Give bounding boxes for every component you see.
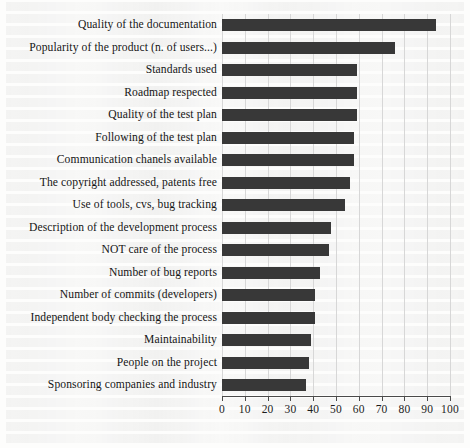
bar — [222, 42, 395, 54]
bar — [222, 357, 309, 369]
bar — [222, 244, 329, 256]
bar-row: Independent body checking the process — [0, 307, 470, 330]
horizontal-bar-chart: 0102030405060708090100Quality of the doc… — [0, 0, 470, 448]
category-label: Independent body checking the process — [30, 307, 217, 330]
x-axis-tick — [359, 397, 360, 401]
bar-row: Number of commits (developers) — [0, 284, 470, 307]
category-label: Maintainability — [144, 329, 217, 352]
category-label: Description of the development process — [29, 217, 217, 240]
bar — [222, 312, 315, 324]
x-axis-tick — [450, 397, 451, 401]
bar — [222, 64, 357, 76]
bar-row: Roadmap respected — [0, 82, 470, 105]
bar-row: Quality of the test plan — [0, 104, 470, 127]
x-axis-tick — [290, 397, 291, 401]
bar-row: Communication chanels available — [0, 149, 470, 172]
category-label: Number of bug reports — [109, 262, 217, 285]
bar-row: Sponsoring companies and industry — [0, 374, 470, 397]
bar — [222, 379, 306, 391]
x-axis-tick — [268, 397, 269, 401]
category-label: Following of the test plan — [95, 127, 217, 150]
x-axis-tick-label: 100 — [435, 403, 465, 415]
category-label: NOT care of the process — [102, 239, 217, 262]
bar — [222, 132, 354, 144]
category-label: Number of commits (developers) — [60, 284, 217, 307]
category-label: Use of tools, cvs, bug tracking — [73, 194, 217, 217]
category-label: People on the project — [117, 352, 217, 375]
bar-row: Number of bug reports — [0, 262, 470, 285]
bar — [222, 19, 436, 31]
bar — [222, 109, 357, 121]
bar-row: Use of tools, cvs, bug tracking — [0, 194, 470, 217]
x-axis-tick — [427, 397, 428, 401]
bar-row: Maintainability — [0, 329, 470, 352]
category-label: Popularity of the product (n. of users..… — [29, 37, 217, 60]
bar — [222, 199, 345, 211]
bar-row: The copyright addressed, patents free — [0, 172, 470, 195]
bar-row: Standards used — [0, 59, 470, 82]
category-label: Quality of the documentation — [78, 14, 217, 37]
bar — [222, 289, 315, 301]
bar-row: Description of the development process — [0, 217, 470, 240]
category-label: Communication chanels available — [57, 149, 217, 172]
bar — [222, 267, 320, 279]
bar-row: Quality of the documentation — [0, 14, 470, 37]
bar — [222, 334, 311, 346]
category-label: Standards used — [146, 59, 217, 82]
x-axis-tick — [245, 397, 246, 401]
x-axis-tick — [313, 397, 314, 401]
bar-row: People on the project — [0, 352, 470, 375]
bar — [222, 87, 357, 99]
bar — [222, 222, 331, 234]
x-axis-tick — [222, 397, 223, 401]
x-axis-tick — [336, 397, 337, 401]
category-label: Roadmap respected — [124, 82, 217, 105]
bar — [222, 177, 350, 189]
bar — [222, 154, 354, 166]
category-label: Sponsoring companies and industry — [48, 374, 217, 397]
bar-row: Popularity of the product (n. of users..… — [0, 37, 470, 60]
x-axis-tick — [382, 397, 383, 401]
bar-row: Following of the test plan — [0, 127, 470, 150]
x-axis-tick — [404, 397, 405, 401]
category-label: Quality of the test plan — [108, 104, 217, 127]
category-label: The copyright addressed, patents free — [40, 172, 217, 195]
bar-row: NOT care of the process — [0, 239, 470, 262]
